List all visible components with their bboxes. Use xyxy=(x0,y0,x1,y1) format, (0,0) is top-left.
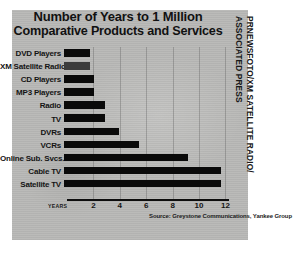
bar-category-label: TV xyxy=(0,115,64,124)
bar-track xyxy=(64,60,236,73)
bar-track xyxy=(64,152,236,165)
x-tick-label: 4 xyxy=(118,201,122,211)
chart-title-line-1: Number of Years to 1 Million xyxy=(0,9,236,24)
bar xyxy=(64,62,90,70)
bar-row: DVD Players xyxy=(0,47,236,60)
bar-track xyxy=(64,86,236,99)
bar-row: MP3 Players xyxy=(0,86,236,99)
chart-title: Number of Years to 1 Million Comparative… xyxy=(0,9,236,39)
bar-category-label: Satellite TV xyxy=(0,180,64,189)
chart-title-line-2: Comparative Products and Services xyxy=(0,24,236,39)
bar xyxy=(64,154,188,162)
bar xyxy=(64,128,119,136)
bar-category-label: CD Players xyxy=(0,75,64,84)
x-tick-label: 10 xyxy=(195,201,204,211)
bar-track xyxy=(64,126,236,139)
bar-row: VCRs xyxy=(0,139,236,152)
bar-track xyxy=(64,165,236,178)
bar-category-label: Cable TV xyxy=(0,167,64,176)
bar-row: Online Sub. Svcs. xyxy=(0,152,236,165)
bar-row: Satellite TV xyxy=(0,178,236,191)
bar-category-label: DVRs xyxy=(0,128,64,137)
x-axis-title: YEARS xyxy=(48,203,67,210)
x-tick-label: 2 xyxy=(91,201,95,211)
bar-category-label: VCRs xyxy=(0,141,64,150)
bar-track xyxy=(64,112,236,125)
bar-row: CD Players xyxy=(0,73,236,86)
bar-track xyxy=(64,73,236,86)
bar-track xyxy=(64,99,236,112)
bar-row: DVRs xyxy=(0,126,236,139)
x-tick-label: 8 xyxy=(170,201,174,211)
chart-figure: Number of Years to 1 Million Comparative… xyxy=(0,0,298,254)
bar xyxy=(64,49,90,57)
bar-track xyxy=(64,47,236,60)
bar-category-label: DVD Players xyxy=(0,49,64,58)
bar xyxy=(64,114,105,122)
bar xyxy=(64,141,139,149)
bar-category-label: Online Sub. Svcs. xyxy=(0,154,64,163)
bar xyxy=(64,101,105,109)
source-note: Source: Greystone Communications, Yankee… xyxy=(149,212,292,220)
bar-category-label: XM Satellite Radio xyxy=(0,62,64,71)
bar xyxy=(64,180,221,188)
bar xyxy=(64,75,94,83)
x-tick-label: 12 xyxy=(221,201,230,211)
bar-category-label: Radio xyxy=(0,101,64,110)
photo-credit-line-1: PRNEWSFOTO/XM SATELLITE RADIO/ xyxy=(245,16,256,216)
bar-row: XM Satellite Radio xyxy=(0,60,236,73)
bar-category-label: MP3 Players xyxy=(0,88,64,97)
bar xyxy=(64,88,94,96)
x-tick-label: 6 xyxy=(144,201,148,211)
bar-track xyxy=(64,139,236,152)
bar-row: Cable TV xyxy=(0,165,236,178)
bar-row: Radio xyxy=(0,99,236,112)
chart-plot-area: DVD PlayersXM Satellite RadioCD PlayersM… xyxy=(0,47,236,199)
bar-row: TV xyxy=(0,112,236,125)
bar xyxy=(64,167,221,175)
bar-track xyxy=(64,178,236,191)
